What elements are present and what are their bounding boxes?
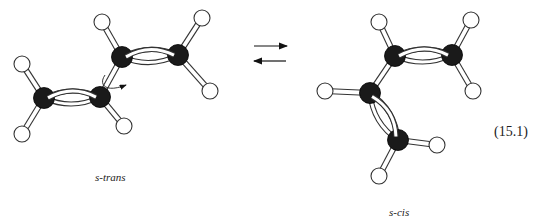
equilibrium-arrows bbox=[254, 46, 287, 61]
s-trans-hydrogen-atom bbox=[194, 10, 210, 26]
s-trans-hydrogen-atom bbox=[14, 126, 30, 142]
s-trans-label: s-trans bbox=[95, 171, 126, 183]
s-trans-hydrogen-atom bbox=[202, 83, 218, 99]
s-trans-hydrogen-atom bbox=[14, 56, 30, 72]
s-cis-label: s-cis bbox=[389, 206, 409, 218]
equation-number: (15.1) bbox=[494, 124, 528, 140]
s-cis-hydrogen-atom bbox=[371, 168, 387, 184]
s-trans-hydrogen-atom bbox=[116, 118, 132, 134]
s-cis-hydrogen-atom bbox=[465, 83, 481, 99]
s-cis-hydrogen-atom bbox=[429, 137, 445, 153]
s-cis-hydrogen-atom bbox=[317, 83, 333, 99]
s-cis-hydrogen-atom bbox=[463, 12, 479, 28]
s-cis-hydrogen-atom bbox=[371, 14, 387, 30]
atoms-layer bbox=[14, 10, 481, 184]
reaction-diagram bbox=[0, 0, 552, 218]
s-trans-hydrogen-atom bbox=[94, 14, 110, 30]
